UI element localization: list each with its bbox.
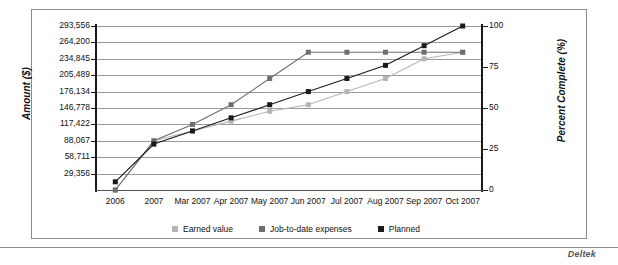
legend-label: Earned value — [183, 224, 233, 234]
legend-swatch-icon — [378, 226, 384, 232]
gridline — [96, 26, 482, 27]
legend-label: Job-to-date expenses — [270, 224, 352, 234]
gridline — [96, 42, 482, 43]
y-axis-left-tick — [91, 124, 96, 125]
y-axis-right-tick-label: 100 — [489, 21, 515, 30]
gridline — [96, 141, 482, 142]
brand-logo: Deltek — [568, 249, 596, 259]
gridline — [96, 124, 482, 125]
gridline — [96, 157, 482, 158]
y-axis-right-tick-label: 0 — [489, 185, 515, 194]
gridline — [96, 75, 482, 76]
legend-item[interactable]: Planned — [378, 224, 420, 234]
y-axis-right-tick-label: 25 — [489, 144, 515, 153]
y-axis-left-tick — [91, 108, 96, 109]
gridline — [96, 92, 482, 93]
y-axis-left-tick-label: 264,200 — [38, 37, 90, 46]
y-axis-right-tick — [483, 26, 488, 27]
legend-swatch-icon — [259, 226, 265, 232]
legend-item[interactable]: Job-to-date expenses — [259, 224, 352, 234]
y-axis-left-tick — [91, 157, 96, 158]
y-axis-left-tick-label: 146,778 — [38, 103, 90, 112]
gridline — [96, 108, 482, 109]
y-axis-left-tick — [91, 92, 96, 93]
y-axis-left-tick-label: 117,422 — [38, 119, 90, 128]
legend-swatch-icon — [172, 226, 178, 232]
y-axis-right-tick — [483, 108, 488, 109]
y-axis-right-tick-label: 75 — [489, 62, 515, 71]
y-axis-left-tick-label: 176,134 — [38, 87, 90, 96]
chart-legend: Earned valueJob-to-date expensesPlanned — [96, 222, 496, 236]
y-axis-left-tick — [91, 26, 96, 27]
footer-divider — [0, 247, 618, 248]
y-axis-left-tick — [91, 42, 96, 43]
y-axis-right-tick-label: 50 — [489, 103, 515, 112]
gridline — [96, 59, 482, 60]
chart-figure: 29,35658,71188,067117,422146,778176,1342… — [0, 0, 618, 265]
x-axis-line — [95, 190, 483, 191]
chart-gridlines — [96, 26, 482, 190]
y-axis-right-title: Percent Complete (%) — [556, 16, 567, 166]
y-axis-left-tick-label: 234,845 — [38, 54, 90, 63]
y-axis-left-tick — [91, 141, 96, 142]
y-axis-right-tick — [483, 190, 488, 191]
y-axis-left-title: Amount ($) — [21, 46, 32, 142]
legend-item[interactable]: Earned value — [172, 224, 233, 234]
y-axis-left-tick-label: 58,711 — [38, 152, 90, 161]
y-axis-left-tick-label: 293,556 — [38, 21, 90, 30]
x-axis-tick-label: Oct 2007 — [431, 196, 495, 206]
y-axis-left-tick-label: 88,067 — [38, 136, 90, 145]
y-axis-right-tick — [483, 67, 488, 68]
y-axis-left-tick — [91, 75, 96, 76]
y-axis-left-tick — [91, 174, 96, 175]
y-axis-left-tick-label: 29,356 — [38, 169, 90, 178]
y-axis-right-tick — [483, 149, 488, 150]
gridline — [96, 174, 482, 175]
y-axis-left-tick — [91, 59, 96, 60]
y-axis-left-tick-label: 205,489 — [38, 70, 90, 79]
legend-label: Planned — [389, 224, 420, 234]
